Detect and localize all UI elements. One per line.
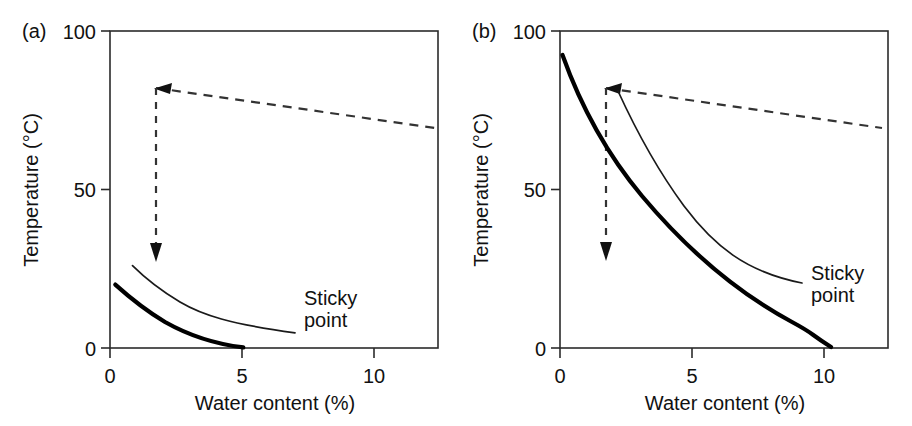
panel-a-drop-arrowhead-icon (150, 243, 162, 262)
panel-b-sticky-label-line2: point (811, 284, 855, 306)
panel-b-drop-arrowhead-icon (600, 242, 612, 261)
panel-a-xtick-label-5: 5 (236, 365, 247, 387)
panel-a-sticky-point-curve (133, 266, 296, 333)
panel-a-axes-frame (110, 31, 438, 348)
panel-b-sticky-label-line1: Sticky (811, 262, 864, 284)
panel-b-xtick-label-0: 0 (554, 365, 565, 387)
panel-b-x-axis-title: Water content (%) (645, 392, 805, 414)
panel-b-ytick-label-0: 0 (535, 338, 546, 360)
panel-a-glass-transition-curve (115, 285, 243, 348)
panel-b-sticky-point-curve (618, 91, 802, 283)
chart-panel-b: (b) 100 50 0 0 5 10 Water content (%) Te… (456, 0, 912, 426)
chart-panel-a: (a) 100 50 0 0 5 10 Water content (%) Te… (0, 0, 456, 426)
panel-b-glass-transition-curve (563, 55, 832, 347)
panel-a-ytick-label-0: 0 (85, 338, 96, 360)
panel-b-xtick-label-10: 10 (813, 365, 835, 387)
panel-a-xtick-label-10: 10 (363, 365, 385, 387)
panel-a-boiling-point-dashed-line (156, 88, 435, 128)
panel-b-xtick-label-5: 5 (686, 365, 697, 387)
panel-b-ytick-label-100: 100 (513, 21, 546, 43)
panel-b-plot: (b) 100 50 0 0 5 10 Water content (%) Te… (456, 0, 912, 426)
panel-b-ytick-label-50: 50 (524, 179, 546, 201)
panel-a-ytick-label-50: 50 (74, 179, 96, 201)
panel-a-x-axis-title: Water content (%) (195, 392, 355, 414)
panel-a-ytick-label-100: 100 (63, 21, 96, 43)
panel-a-letter: (a) (22, 20, 46, 42)
panel-a-y-axis-title: Temperature (°C) (20, 113, 42, 267)
panel-b-letter: (b) (472, 20, 496, 42)
panel-b-y-axis-title: Temperature (°C) (470, 113, 492, 267)
figure-two-panel-chart: (a) 100 50 0 0 5 10 Water content (%) Te… (0, 0, 912, 426)
panel-a-plot: (a) 100 50 0 0 5 10 Water content (%) Te… (0, 0, 456, 426)
panel-b-boiling-point-dashed-line (606, 88, 882, 128)
panel-a-sticky-label-line1: Sticky (304, 287, 357, 309)
panel-a-xtick-label-0: 0 (104, 365, 115, 387)
panel-a-sticky-label-line2: point (304, 309, 348, 331)
